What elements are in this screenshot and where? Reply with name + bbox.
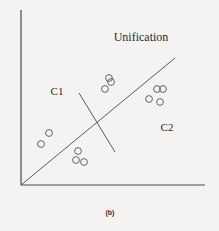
unification-diagram: Unification C1C2 (b)	[0, 0, 219, 231]
figure-caption: (b)	[106, 209, 115, 217]
cluster-label-c1: C1	[51, 85, 64, 97]
background	[0, 0, 219, 231]
diagram-title: Unification	[114, 30, 169, 44]
cluster-label-c2: C2	[161, 121, 174, 133]
